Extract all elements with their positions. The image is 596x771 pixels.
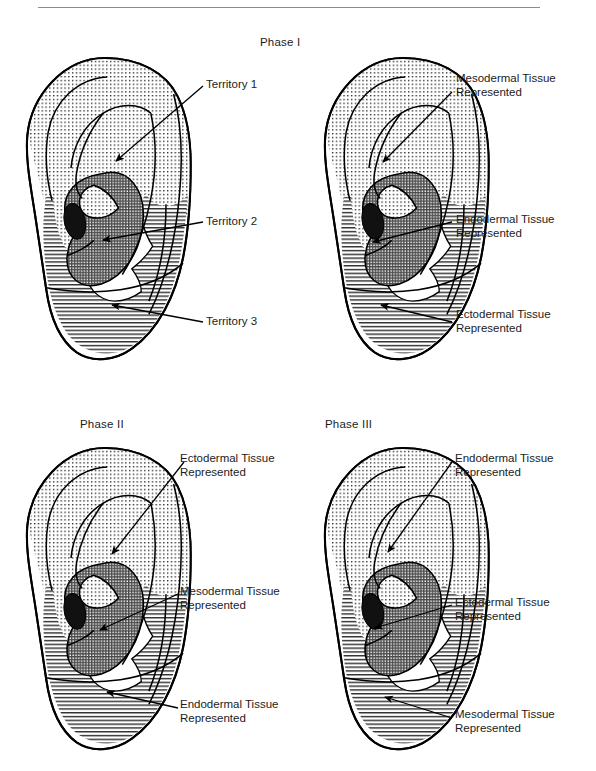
annotation-line: Represented (455, 722, 555, 736)
annotation-line: Territory 1 (206, 78, 257, 92)
annotation-line: Represented (180, 466, 275, 480)
annotation-line: Mesodermal Tissue (180, 585, 280, 599)
annotation-line: Endodermal Tissue (455, 452, 553, 466)
annotation-line: Represented (455, 466, 553, 480)
ear-diagram-bottom-left (14, 442, 204, 756)
annotation-line: Territory 3 (206, 315, 257, 329)
annotation-ectodermal-top-right: Ectodermal Tissue Represented (456, 308, 551, 335)
annotation-endodermal-bottom-right: Endodermal Tissue Represented (455, 452, 553, 479)
annotation-territory-3: Territory 3 (206, 315, 257, 329)
annotation-line: Represented (456, 86, 556, 100)
annotation-line: Territory 2 (206, 215, 257, 229)
annotation-line: Endodermal Tissue (180, 698, 278, 712)
annotation-endodermal-top-right: Endodermal Tissue Represented (456, 213, 554, 240)
annotation-line: Represented (180, 599, 280, 613)
annotation-ectodermal-bottom-left: Ectodermal Tissue Represented (180, 452, 275, 479)
annotation-line: Ectodermal Tissue (456, 308, 551, 322)
annotation-line: Endodermal Tissue (456, 213, 554, 227)
annotation-territory-2: Territory 2 (206, 215, 257, 229)
annotation-mesodermal-top-right: Mesodermal Tissue Represented (456, 72, 556, 99)
ear-svg (14, 52, 204, 366)
annotation-ectodermal-bottom-right: Ectodermal Tissue Represented (455, 596, 550, 623)
annotation-line: Ectodermal Tissue (455, 596, 550, 610)
phase-label-3: Phase III (325, 418, 372, 430)
annotation-mesodermal-bottom-right: Mesodermal Tissue Represented (455, 708, 555, 735)
phase-label-1: Phase I (260, 36, 300, 48)
annotation-territory-1: Territory 1 (206, 78, 257, 92)
ear-svg (14, 442, 204, 756)
annotation-mesodermal-bottom-left: Mesodermal Tissue Represented (180, 585, 280, 612)
annotation-endodermal-bottom-left: Endodermal Tissue Represented (180, 698, 278, 725)
annotation-line: Represented (456, 227, 554, 241)
annotation-line: Mesodermal Tissue (456, 72, 556, 86)
top-rule (38, 7, 540, 8)
annotation-line: Ectodermal Tissue (180, 452, 275, 466)
annotation-line: Mesodermal Tissue (455, 708, 555, 722)
figure-page: Phase I Territory 1 Territory 2 Territor… (0, 0, 596, 771)
annotation-line: Represented (456, 322, 551, 336)
annotation-line: Represented (180, 712, 278, 726)
annotation-line: Represented (455, 610, 550, 624)
phase-label-2: Phase II (80, 418, 124, 430)
ear-diagram-top-left (14, 52, 204, 366)
